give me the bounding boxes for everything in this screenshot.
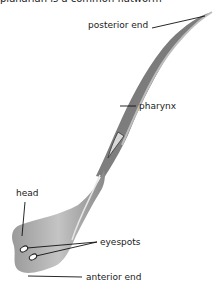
- planarian-anterior-body: [12, 170, 105, 273]
- label-head: head: [16, 188, 38, 198]
- label-eyespots: eyespots: [100, 237, 141, 247]
- label-pharynx: pharynx: [139, 101, 177, 111]
- planarian-diagram: posterior end pharynx head eyespots ante…: [0, 0, 223, 286]
- planarian-posterior-body: [96, 12, 212, 178]
- label-anterior-end: anterior end: [86, 272, 142, 282]
- label-posterior-end: posterior end: [88, 20, 148, 30]
